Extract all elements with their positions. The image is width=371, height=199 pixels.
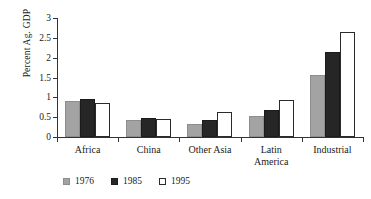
x-axis-spine [57,137,363,138]
bar-group-bars [57,18,118,137]
bar-group-bars [302,18,363,137]
y-axis-tick-label: 2 [46,53,51,63]
chart-legend: 197619851995 [63,176,190,186]
plot-area: 00.511.522.53 AfricaChinaOther AsiaLatin… [57,18,363,137]
y-axis-tick-label: 2.5 [39,33,51,43]
y-axis-tick-label: 1.5 [39,73,51,83]
y-axis-tick-label: 0.5 [39,112,51,122]
category-label: Other Asia [179,144,240,156]
bar-group [118,18,179,137]
bar-1985[interactable] [80,99,95,137]
bar-group [179,18,240,137]
bar-1995[interactable] [217,112,232,137]
y-axis-tick-label: 0 [46,132,51,142]
category-label: Latin America [241,144,302,167]
bar-1976[interactable] [126,120,141,137]
bar-1985[interactable] [325,52,340,137]
bar-group [57,18,118,137]
bar-1976[interactable] [65,101,80,137]
x-axis-tick-mark [241,137,242,142]
legend-item-label: 1985 [123,176,142,186]
bar-1976[interactable] [249,116,264,137]
legend-item-1976[interactable]: 1976 [63,176,94,186]
white-square-icon [159,178,166,185]
category-label: Industrial [302,144,363,156]
x-axis-tick-mark [179,137,180,142]
x-axis-tick-mark [363,137,364,142]
bar-1985[interactable] [141,118,156,137]
legend-item-1985[interactable]: 1985 [111,176,142,186]
bar-group-bars [179,18,240,137]
x-axis-tick-mark [302,137,303,142]
bar-group [241,18,302,137]
bar-group [302,18,363,137]
bar-1985[interactable] [264,110,279,137]
bar-group-bars [241,18,302,137]
x-axis-tick-mark [118,137,119,142]
bar-1985[interactable] [202,120,217,137]
bar-1995[interactable] [340,32,355,137]
legend-item-label: 1976 [75,176,94,186]
bar-group-bars [118,18,179,137]
gray-square-icon [63,178,70,185]
category-label: Africa [57,144,118,156]
black-square-icon [111,178,118,185]
bar-1995[interactable] [156,119,171,137]
bar-1976[interactable] [310,75,325,137]
bar-chart-figure: Percent Ag. GDP 00.511.522.53 AfricaChin… [0,0,371,199]
x-axis-tick-mark [57,137,58,142]
bar-1976[interactable] [187,124,202,137]
bar-1995[interactable] [95,103,110,137]
category-label: China [118,144,179,156]
legend-item-1995[interactable]: 1995 [159,176,190,186]
y-axis-label: Percent Ag. GDP [22,0,32,98]
legend-item-label: 1995 [171,176,190,186]
y-axis-tick-label: 3 [46,13,51,23]
y-axis-tick-label: 1 [46,92,51,102]
bar-1995[interactable] [279,100,294,137]
